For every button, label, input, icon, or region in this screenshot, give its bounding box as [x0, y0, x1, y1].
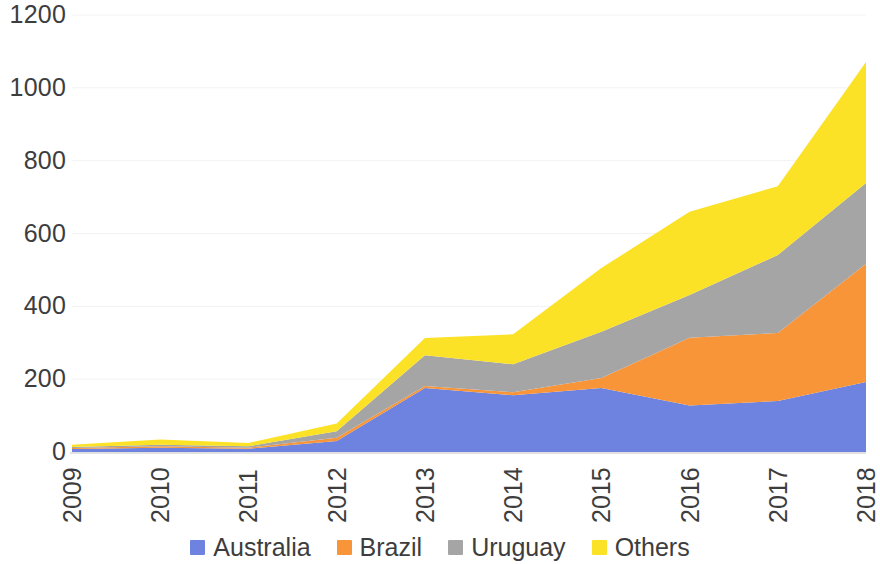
stacked-area-series [72, 62, 866, 452]
x-axis-tick-label: 2013 [412, 453, 438, 523]
legend-item-label: Australia [213, 534, 310, 561]
x-axis-tick-label: 2010 [147, 453, 173, 523]
y-axis-tick-label: 200 [4, 366, 66, 391]
legend-swatch-uruguay [448, 540, 463, 555]
x-axis-tick-label: 2017 [765, 453, 791, 523]
x-axis-tick-label: 2016 [677, 453, 703, 523]
stacked-area-chart: 120010008006004002000 200920102011201220… [0, 0, 880, 564]
x-axis-tick-labels: 2009201020112012201320142015201620172018 [0, 455, 880, 525]
legend-item-label: Uruguay [471, 534, 566, 561]
x-axis-tick-label: 2009 [59, 453, 85, 523]
legend-item-uruguay[interactable]: Uruguay [448, 534, 566, 561]
y-axis-tick-label: 800 [4, 148, 66, 173]
legend-item-label: Others [615, 534, 690, 561]
y-axis-tick-labels: 120010008006004002000 [0, 0, 66, 470]
y-axis-tick-label: 1000 [4, 75, 66, 100]
x-axis-tick-label: 2012 [324, 453, 350, 523]
legend-item-label: Brazil [360, 534, 423, 561]
legend-swatch-brazil [337, 540, 352, 555]
x-axis-tick-label: 2018 [853, 453, 879, 523]
y-axis-tick-label: 1200 [4, 2, 66, 27]
legend-item-brazil[interactable]: Brazil [337, 534, 423, 561]
x-axis-tick-label: 2014 [500, 453, 526, 523]
x-axis-tick-label: 2011 [235, 453, 261, 523]
y-axis-tick-label: 600 [4, 221, 66, 246]
x-axis-tick-label: 2015 [588, 453, 614, 523]
legend-swatch-others [592, 540, 607, 555]
legend-item-others[interactable]: Others [592, 534, 690, 561]
y-axis-tick-label: 400 [4, 293, 66, 318]
legend-swatch-australia [190, 540, 205, 555]
chart-legend: AustraliaBrazilUruguayOthers [0, 531, 880, 564]
legend-item-australia[interactable]: Australia [190, 534, 310, 561]
